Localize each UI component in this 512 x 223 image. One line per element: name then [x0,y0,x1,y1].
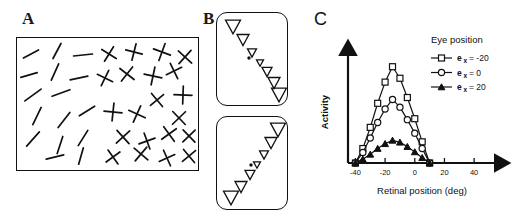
cross-element-stroke [97,74,112,81]
line-element [51,64,58,80]
chart-legend: Eye position ex= -20ex= 0ex= 20 [431,34,489,93]
cross-element-stroke [104,111,122,113]
line-element [74,54,93,56]
legend-subscript: x [464,72,468,79]
line-element [46,155,63,159]
line-element [52,90,70,97]
triangle-marker [248,49,257,57]
data-point-square [397,75,403,81]
data-point-circle [419,145,425,151]
data-point-square [404,95,410,101]
triangle-marker [254,162,261,168]
legend-value: = 0 [469,68,481,78]
triangle-group [224,123,286,205]
panel-b-triangle-arrays [216,12,291,212]
series-line [355,140,429,163]
line-element [27,132,40,146]
texture-field-svg [17,38,197,169]
triangle-marker [224,191,239,205]
data-point-circle [389,96,395,102]
panel-c-activity-chart: -40-2002040 Retinal position (deg) Activ… [300,12,512,217]
data-point-triangle [389,137,396,143]
fixation-dot-mark [247,56,250,59]
cross-element-stroke [108,150,118,164]
x-tick-label: 20 [440,168,448,177]
x-axis-tick-labels: -40-2002040 [350,168,478,177]
descending-triangle-array-svg [217,13,287,105]
data-series-group [352,64,433,166]
triangle-marker [265,137,277,148]
legend-subscript: x [464,57,468,64]
legend-symbol: e [457,53,462,63]
legend-entry-1[interactable]: ex= -20 [431,53,489,64]
triangle-marker [271,123,286,137]
y-axis-title: Activity [319,94,330,129]
line-element [78,130,88,145]
cross-element-stroke [174,95,192,96]
legend-entry-2[interactable]: ex= 0 [431,68,481,79]
x-tick-label: -40 [350,168,361,177]
panel-label-a: A [22,10,34,27]
data-point-circle [438,69,444,75]
triangle-marker [257,60,264,66]
data-point-square [390,64,396,70]
legend-entries: ex= -20ex= 0ex= 20 [431,53,489,93]
data-point-triangle [404,143,411,149]
data-point-square [375,100,381,106]
data-point-circle [375,119,381,125]
line-element [53,43,61,58]
data-point-triangle [374,145,381,151]
triangle-marker [262,67,272,76]
ascending-triangle-array-svg [217,117,287,209]
line-element [79,106,94,116]
legend-entry-3[interactable]: ex= 20 [431,82,486,93]
cross-element-stroke [184,149,195,162]
triangle-marker [268,77,280,88]
triangle-marker [226,20,241,34]
data-point-circle [360,149,366,155]
single-line-elements [21,43,95,164]
cross-element-stroke [164,150,171,166]
cross-element-stroke [102,50,116,59]
line-element [70,76,88,80]
series-line [355,67,429,163]
x-tick-label: -20 [380,168,391,177]
line-element [23,50,38,58]
data-point-circle [367,135,373,141]
fixation-dot-mark [249,163,252,166]
cross-element-stroke [152,93,163,106]
triangle-marker [245,170,255,179]
activity-tuning-curve-chart: -40-2002040 Retinal position (deg) Activ… [300,12,512,217]
legend-subscript: x [464,86,468,93]
data-point-square [412,116,418,122]
panel-label-b: B [203,10,214,27]
line-element [57,136,63,153]
legend-value: = 20 [469,82,486,92]
data-point-square [439,55,445,61]
triangle-marker [260,151,269,159]
line-element [79,148,84,164]
data-point-square [382,79,388,85]
line-element [25,89,41,101]
line-element [33,107,41,124]
cross-element-stroke [134,148,148,160]
data-point-triangle [382,141,389,147]
fixation-dot [247,56,250,59]
x-tick-label: 0 [413,168,417,177]
legend-title: Eye position [431,34,483,45]
data-point-square [367,124,373,130]
stimulus-box-top [216,12,288,106]
legend-symbol: e [457,68,462,78]
panel-a-texture-field [16,37,199,171]
x-tick-label: 40 [470,168,478,177]
legend-value: = -20 [469,53,489,63]
cross-element-stroke [164,127,175,142]
cross-line-elements [97,44,195,166]
triangle-marker [237,34,249,45]
data-point-circle [382,106,388,112]
series-2 [352,96,432,166]
x-axis-title: Retinal position (deg) [377,185,467,196]
line-element [58,113,70,128]
data-point-circle [397,104,403,110]
line-element [21,73,37,78]
